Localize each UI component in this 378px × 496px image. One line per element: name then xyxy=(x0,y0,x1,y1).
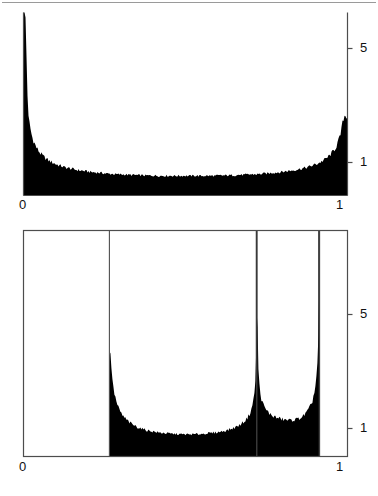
top-xtick-0: 0 xyxy=(19,198,26,211)
bottom-histogram-area xyxy=(109,278,319,457)
top-ytick-5: 5 xyxy=(360,41,367,54)
top-ytick-1: 1 xyxy=(360,155,367,168)
bottom-ytick-1: 1 xyxy=(360,421,367,434)
figure-page: 0 1 5 1 0 1 5 1 xyxy=(0,0,378,496)
bottom-histogram-panel xyxy=(0,222,378,496)
bottom-histogram-plot xyxy=(0,222,378,496)
top-histogram-area xyxy=(24,13,348,196)
top-histogram-plot xyxy=(0,0,378,222)
bottom-xtick-0: 0 xyxy=(19,460,26,473)
top-histogram-panel: 0 1 5 1 xyxy=(0,0,378,222)
bottom-xtick-1: 1 xyxy=(336,460,343,473)
bottom-ytick-5: 5 xyxy=(360,307,367,320)
top-xtick-1: 1 xyxy=(336,198,343,211)
